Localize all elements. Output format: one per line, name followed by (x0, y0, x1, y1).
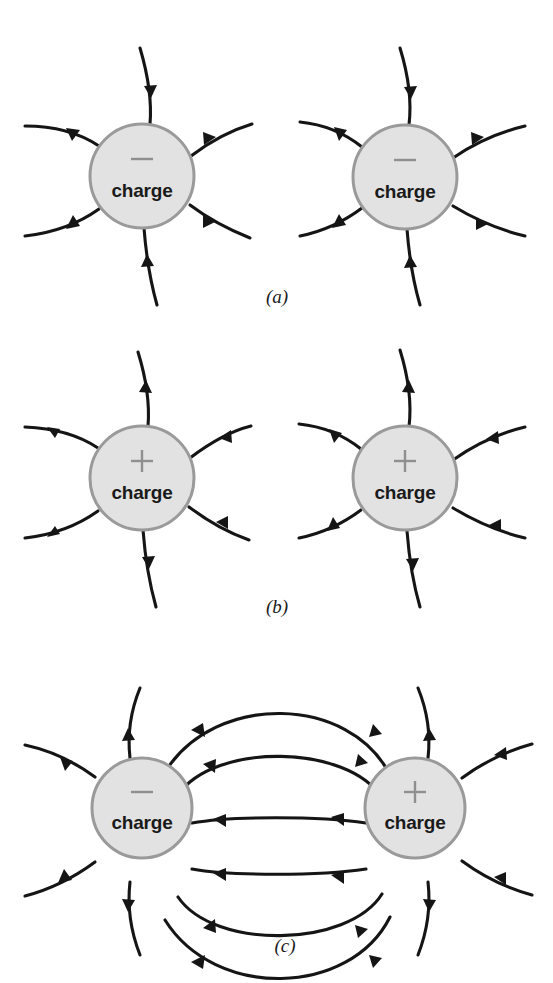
arrow-head-icon (355, 925, 368, 938)
arrow-head-icon (402, 380, 415, 393)
field-line (462, 744, 532, 778)
field-line (191, 124, 252, 156)
arrow-head-icon (60, 757, 73, 771)
charge-circle (353, 426, 457, 530)
panel-b: charge charge (b) (0, 330, 553, 640)
field-line (25, 745, 95, 777)
field-line (25, 209, 99, 236)
charge-body-b-left: charge (90, 426, 194, 530)
field-line (418, 688, 429, 758)
charge-label: charge (111, 482, 172, 503)
arrow-head-icon (141, 254, 154, 267)
panel-caption-a: (a) (266, 286, 288, 308)
arrow-head-icon (369, 955, 382, 968)
charge-circle (365, 758, 465, 858)
panel-a: charge charge (a) (0, 0, 553, 330)
arrow-head-icon (423, 899, 436, 912)
charge-circle (90, 124, 194, 228)
charge-label: charge (111, 180, 172, 201)
arrow-head-icon (369, 724, 382, 737)
panel-caption-c: (c) (274, 935, 295, 957)
field-line (190, 205, 250, 238)
charge-label: charge (111, 812, 172, 833)
arrow-head-icon (191, 723, 205, 737)
arrow-head-icon (58, 869, 72, 883)
arrow-head-icon (404, 86, 417, 99)
arrow-head-icon (423, 728, 436, 741)
arrow-head-icon (144, 85, 157, 98)
field-line (190, 426, 251, 458)
arrow-head-icon (122, 899, 135, 912)
charge-circle (90, 426, 194, 530)
field-line (453, 427, 525, 460)
field-line (25, 126, 99, 146)
field-line (453, 126, 525, 158)
arrow-head-icon (191, 955, 205, 969)
field-line (300, 122, 362, 147)
arrow-head-icon (486, 431, 499, 444)
field-line (129, 688, 140, 758)
charge-label: charge (374, 181, 435, 202)
charge-body-c-left: charge (92, 758, 192, 858)
arrow-head-icon (47, 526, 60, 537)
charge-label: charge (374, 482, 435, 503)
field-line (453, 206, 525, 236)
arrow-head-icon (47, 427, 60, 438)
field-line (453, 508, 525, 538)
field-lines-figure: charge charge (a) (0, 0, 553, 983)
arrow-head-icon (476, 217, 488, 230)
field-line (129, 882, 140, 955)
panel-c: charge charge (c) (0, 640, 553, 983)
arrow-head-icon (406, 558, 419, 571)
field-line (400, 48, 410, 125)
arrow-head-icon (213, 868, 226, 881)
charge-circle (92, 758, 192, 858)
panel-caption-b: (b) (266, 596, 288, 618)
field-line (25, 511, 98, 538)
field-line (299, 424, 361, 449)
charge-body-c-right: charge (365, 758, 465, 858)
charge-body-b-right: charge (353, 426, 457, 530)
arrow-head-icon (355, 754, 368, 767)
field-line (418, 882, 429, 955)
field-line (300, 208, 362, 236)
arrow-head-icon (404, 255, 417, 268)
field-line (25, 427, 98, 448)
charge-body-a-left: charge (90, 124, 194, 228)
charge-circle (353, 125, 457, 229)
charge-body-a-right: charge (353, 125, 457, 229)
arrow-head-icon (122, 728, 135, 741)
field-line (143, 530, 156, 607)
charge-label: charge (384, 812, 445, 833)
arrow-head-icon (139, 380, 152, 393)
arrow-head-icon (142, 556, 155, 569)
